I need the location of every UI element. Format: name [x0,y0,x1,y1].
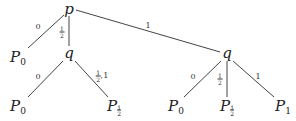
tree-edges [0,0,296,121]
edge-label-ql-phalf: 12,1 [96,70,108,83]
edge-label-p-ql: 12 [60,26,65,39]
leaf-base: P [168,97,178,115]
edge-label-qr-p1: 1 [255,73,260,81]
leaf-subscript: 0 [20,106,26,116]
leaf-base: P [10,48,20,66]
leaf-base: P [107,97,117,115]
leaf-ql-phalf: P12 [107,99,121,116]
leaf-base: P [275,97,285,115]
fraction-denominator: 2 [117,111,121,116]
leaf-subscript-fraction: 12 [117,105,121,116]
edge-qr-to-p1 [233,61,274,97]
leaf-subscript: 0 [20,57,26,67]
leaf-qr-p0: P0 [168,99,184,116]
leaf-subscript: 1 [285,106,291,116]
node-q-left: q [64,46,74,61]
leaf-qr-phalf: P12 [220,99,234,116]
edge-label-qr-phalf: 12 [218,73,223,86]
edge-p-to-q-right [76,10,220,52]
leaf-subscript: 0 [178,106,184,116]
leaf-root-p0: P0 [10,50,26,67]
leaf-qr-p1: P1 [275,99,291,116]
leaf-subscript-fraction: 12 [230,105,234,116]
edge-label-p-p0: 0 [35,23,40,31]
fraction-denominator: 2 [230,111,234,116]
edge-label-p-qr: 1 [145,22,150,30]
fraction-denominator: 2 [60,33,65,39]
leaf-base: P [10,97,20,115]
leaf-base: P [220,97,230,115]
fraction-denominator: 2 [218,80,223,86]
node-root-p: p [64,2,74,17]
label-suffix: ,1 [101,71,109,80]
leaf-ql-p0: P0 [10,99,26,116]
edge-label-qr-p0: 0 [190,73,195,81]
node-q-right: q [222,46,232,61]
edge-ql-to-p0 [28,61,63,97]
edge-label-ql-p0: 0 [35,73,40,81]
